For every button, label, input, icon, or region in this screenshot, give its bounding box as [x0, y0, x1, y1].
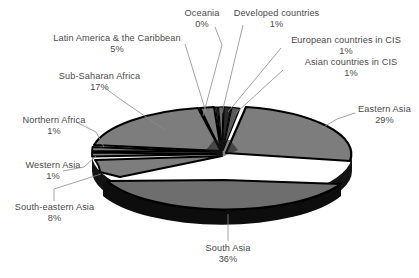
- label-northern-africa-value: 1%: [9, 126, 99, 137]
- leader-asian-cis: [236, 70, 283, 113]
- label-sub-saharan-africa: Sub-Saharan Africa 17%: [47, 71, 152, 93]
- label-asian-cis-value: 1%: [288, 68, 414, 79]
- label-sub-saharan-africa-name: Sub-Saharan Africa: [47, 71, 152, 82]
- label-developed-countries: Developed countries 1%: [219, 8, 334, 30]
- label-western-asia-value: 1%: [13, 171, 93, 182]
- label-south-eastern-asia-value: 8%: [4, 213, 105, 224]
- label-european-cis-name: European countries in CIS: [276, 35, 416, 46]
- label-european-cis-value: 1%: [276, 46, 416, 57]
- label-asian-cis-name: Asian countries in CIS: [288, 57, 414, 68]
- label-eastern-asia-name: Eastern Asia: [352, 104, 417, 115]
- pie-chart-figure: Oceania 0% Developed countries 1% Europe…: [0, 0, 419, 278]
- label-sub-saharan-africa-value: 17%: [47, 82, 152, 93]
- leader-european-cis: [228, 48, 281, 112]
- slice-south-eastern-asia[interactable]: [95, 156, 222, 177]
- label-latin-america-name: Latin America & the Caribbean: [48, 33, 186, 44]
- label-european-cis: European countries in CIS 1%: [276, 35, 416, 57]
- label-south-asia: South Asia 36%: [190, 243, 266, 265]
- label-eastern-asia-value: 29%: [352, 115, 417, 126]
- slice-sub-saharan-africa[interactable]: [94, 108, 221, 151]
- label-asian-cis: Asian countries in CIS 1%: [288, 57, 414, 79]
- label-latin-america: Latin America & the Caribbean 5%: [48, 33, 186, 55]
- label-eastern-asia: Eastern Asia 29%: [352, 104, 417, 126]
- label-south-eastern-asia-name: South-eastern Asia: [4, 202, 105, 213]
- label-south-asia-name: South Asia: [190, 243, 266, 254]
- label-western-asia: Western Asia 1%: [13, 160, 93, 182]
- label-south-eastern-asia: South-eastern Asia 8%: [4, 202, 105, 224]
- slice-eastern-asia[interactable]: [226, 107, 351, 161]
- leader-developed-countries: [222, 25, 243, 113]
- leader-latin-america: [185, 44, 206, 112]
- label-developed-countries-name: Developed countries: [219, 8, 334, 19]
- label-latin-america-value: 5%: [48, 44, 186, 55]
- leader-oceania: [203, 27, 222, 116]
- pie-top-faces: [92, 107, 351, 210]
- label-northern-africa-name: Northern Africa: [9, 115, 99, 126]
- label-south-asia-value: 36%: [190, 254, 266, 265]
- label-northern-africa: Northern Africa 1%: [9, 115, 99, 137]
- label-western-asia-name: Western Asia: [13, 160, 93, 171]
- label-developed-countries-value: 1%: [219, 19, 334, 30]
